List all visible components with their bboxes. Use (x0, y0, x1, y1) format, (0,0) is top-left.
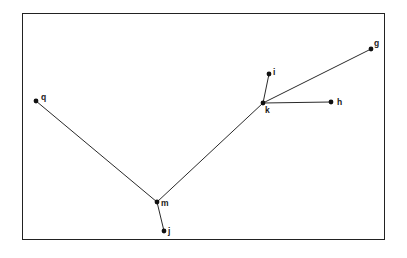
node-q (34, 99, 39, 104)
node-j (162, 229, 167, 234)
edge-k-h (263, 102, 331, 103)
node-label-m: m (161, 198, 169, 208)
tree-diagram: qmjkihg (0, 0, 407, 258)
edge-m-k (157, 103, 263, 202)
node-m (155, 200, 160, 205)
node-label-j: j (167, 226, 170, 236)
edge-q-m (36, 101, 157, 202)
node-h (329, 100, 334, 105)
node-i (267, 72, 272, 77)
node-label-q: q (41, 92, 46, 102)
node-g (369, 47, 374, 52)
nodes-group (34, 47, 374, 234)
edges-group (36, 49, 371, 231)
node-label-k: k (265, 105, 270, 115)
node-label-g: g (374, 38, 379, 48)
node-label-i: i (273, 67, 275, 77)
edge-k-g (263, 49, 371, 103)
labels-group: qmjkihg (41, 38, 379, 236)
edge-k-i (263, 74, 269, 103)
node-label-h: h (337, 97, 342, 107)
